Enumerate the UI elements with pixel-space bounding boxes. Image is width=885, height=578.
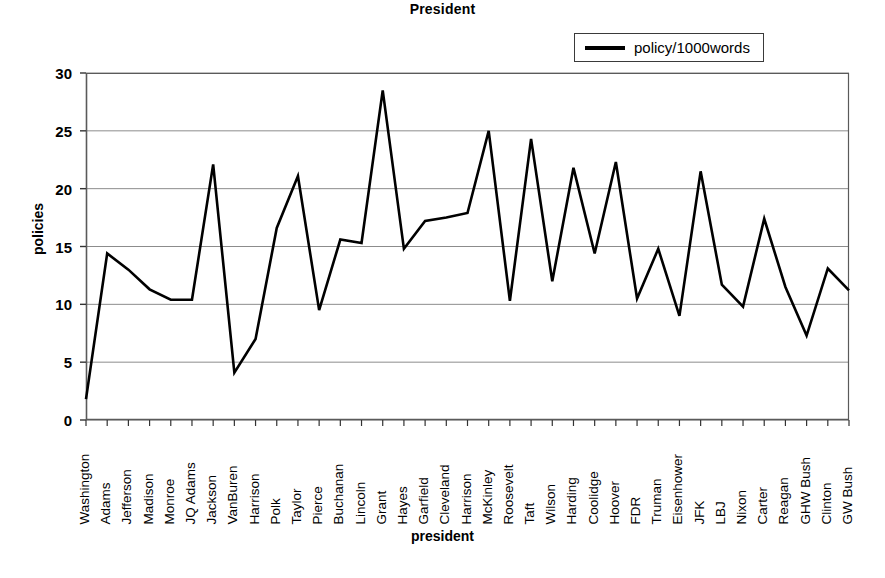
x-ticklabel: Buchanan <box>332 463 346 524</box>
chart-container: President policy/1000words 051015202530 … <box>0 0 885 578</box>
y-ticklabel: 20 <box>55 181 72 196</box>
x-ticklabel: JFK <box>692 500 706 524</box>
x-ticklabel: Adams <box>99 482 113 524</box>
x-ticklabel: Harrison <box>459 473 473 524</box>
x-ticklabel: VanBuren <box>226 465 240 524</box>
x-ticklabel: Lincoln <box>353 481 367 524</box>
x-ticklabel: Jackson <box>205 474 219 524</box>
x-ticklabel: Washington <box>78 453 92 524</box>
x-ticklabel: Madison <box>141 473 155 524</box>
x-ticklabel: Taft <box>523 502 537 524</box>
chart-legend: policy/1000words <box>574 33 764 62</box>
y-ticklabel: 10 <box>55 297 72 312</box>
line-chart-svg <box>86 73 849 420</box>
y-ticklabel: 25 <box>55 123 72 138</box>
x-ticklabel: Cleveland <box>438 464 452 524</box>
x-ticklabel: Harding <box>565 477 579 524</box>
x-ticklabel: Roosevelt <box>501 464 515 524</box>
y-ticklabel: 30 <box>55 66 72 81</box>
x-ticklabel: Taylor <box>289 488 303 524</box>
x-ticklabel: Harrison <box>247 473 261 524</box>
x-ticklabel: Hayes <box>395 486 409 524</box>
x-ticklabel: Monroe <box>162 478 176 524</box>
x-ticklabel: Jefferson <box>120 469 134 524</box>
x-ticklabel: Clinton <box>819 482 833 524</box>
x-ticklabel: Carter <box>756 486 770 524</box>
plot-area <box>86 73 849 420</box>
y-ticklabel: 15 <box>55 239 72 254</box>
data-series-line <box>86 90 849 399</box>
y-ticklabel: 0 <box>64 413 72 428</box>
x-ticklabel: Hoover <box>607 480 621 524</box>
x-ticklabel: Pierce <box>311 486 325 524</box>
x-ticklabel: Wilson <box>544 483 558 524</box>
y-axis-title: policies <box>30 169 46 289</box>
x-ticklabel: Truman <box>650 478 664 524</box>
x-ticklabel: Reagan <box>777 477 791 524</box>
x-ticklabel: Grant <box>374 490 388 524</box>
x-ticklabel: Garfield <box>417 477 431 524</box>
x-axis-title: president <box>0 528 885 544</box>
x-ticklabel: McKinley <box>480 469 494 524</box>
x-ticklabel: Eisenhower <box>671 453 685 524</box>
x-ticklabel: Nixon <box>735 489 749 524</box>
x-axis-ticklabels: WashingtonAdamsJeffersonMadisonMonroeJQ … <box>86 424 849 524</box>
x-ticklabel: GW Bush <box>841 466 855 524</box>
x-ticklabel: JQ Adams <box>183 462 197 524</box>
x-ticklabel: LBJ <box>713 501 727 524</box>
chart-title: President <box>0 1 885 17</box>
x-ticklabel: FDR <box>629 496 643 524</box>
x-ticklabel: Coolidge <box>586 471 600 524</box>
legend-label-policy: policy/1000words <box>634 40 750 55</box>
x-ticklabel: GHW Bush <box>798 456 812 524</box>
legend-line-swatch <box>585 46 625 50</box>
y-axis-ticklabels: 051015202530 <box>0 0 86 578</box>
y-ticklabel: 5 <box>64 355 72 370</box>
x-ticklabel: Polk <box>268 498 282 524</box>
